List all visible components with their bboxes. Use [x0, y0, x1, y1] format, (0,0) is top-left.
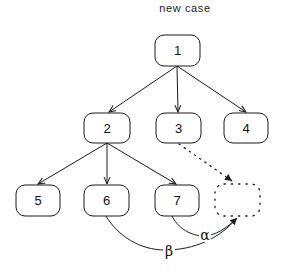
node-1[interactable]: 1 [155, 35, 200, 66]
edge-2-5 [38, 143, 107, 184]
edge-1-3 [177, 66, 178, 112]
edge-1-2 [109, 66, 177, 112]
node-3[interactable]: 3 [156, 113, 201, 143]
node-6[interactable]: 6 [84, 185, 129, 216]
node-7[interactable]: 7 [155, 185, 199, 216]
node-5[interactable]: 5 [16, 185, 60, 216]
tree-diagram: α β 1 2 3 4 5 6 7 [0, 0, 281, 273]
new-case-node[interactable] [215, 184, 260, 216]
edge-3-new-dotted [179, 144, 232, 181]
node-2[interactable]: 2 [84, 113, 130, 143]
node-4[interactable]: 4 [224, 113, 268, 143]
edge-2-7 [107, 143, 176, 184]
node-3-label: 3 [175, 121, 182, 136]
node-7-label: 7 [173, 193, 180, 208]
node-6-label: 6 [103, 193, 110, 208]
node-5-label: 5 [34, 193, 41, 208]
edge-label-beta: β [165, 243, 173, 259]
node-1-label: 1 [174, 43, 181, 58]
node-2-label: 2 [103, 121, 110, 136]
node-4-label: 4 [242, 121, 249, 136]
edge-label-alpha: α [200, 227, 210, 243]
edge-1-4 [177, 66, 246, 112]
